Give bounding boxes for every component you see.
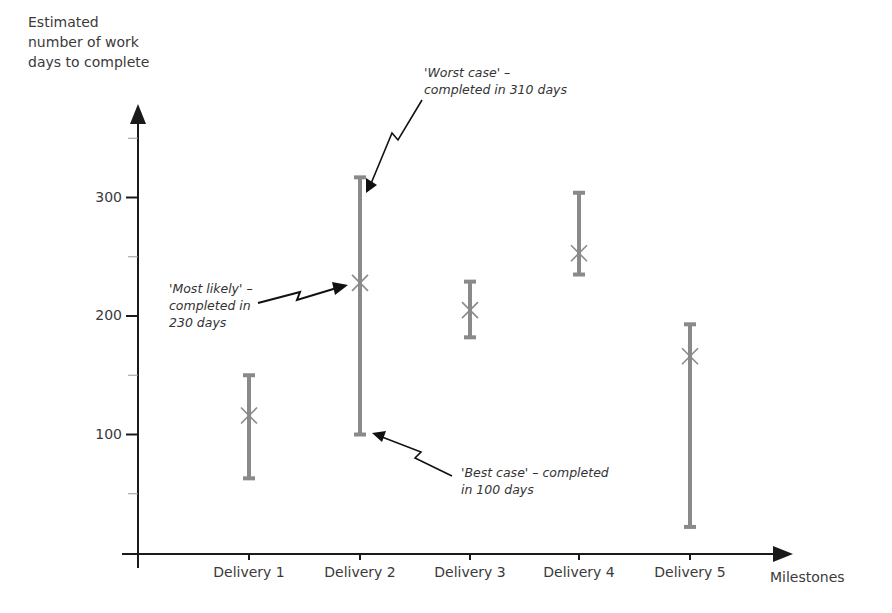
annotation-best-case: 'Best case' – completed in 100 days xyxy=(461,464,609,498)
arrowhead-icon xyxy=(372,431,386,442)
x-category-label: Delivery 1 xyxy=(194,564,304,580)
annotation-line: completed in xyxy=(169,297,253,314)
x-category-label: Delivery 3 xyxy=(415,564,525,580)
y-tick-label: 300 xyxy=(82,189,122,205)
y-axis-title: Estimated number of work days to complet… xyxy=(28,12,198,72)
annotation-line: 'Most likely' – xyxy=(169,280,253,297)
best-case-arrow-icon xyxy=(382,437,452,476)
x-category-label: Delivery 2 xyxy=(305,564,415,580)
annotation-most-likely: 'Most likely' – completed in 230 days xyxy=(169,280,253,331)
worst-case-arrow-icon xyxy=(370,100,422,186)
y-tick-label: 100 xyxy=(82,426,122,442)
annotation-line: in 100 days xyxy=(461,481,609,498)
y-axis-arrow-icon xyxy=(130,104,146,124)
y-axis-title-line-1: Estimated xyxy=(28,12,198,32)
x-category-label: Delivery 5 xyxy=(635,564,745,580)
arrowhead-icon xyxy=(332,282,348,295)
y-axis-title-line-3: days to complete xyxy=(28,52,198,72)
annotation-line: completed in 310 days xyxy=(424,81,567,98)
y-tick-label: 200 xyxy=(82,307,122,323)
x-axis-title: Milestones xyxy=(770,569,845,585)
most-likely-arrow-icon xyxy=(258,287,340,303)
x-axis-arrow-icon xyxy=(773,546,793,562)
annotation-line: 230 days xyxy=(169,314,253,331)
y-axis-title-line-2: number of work xyxy=(28,32,198,52)
annotation-worst-case: 'Worst case' – completed in 310 days xyxy=(424,64,567,98)
annotation-line: 'Best case' – completed xyxy=(461,464,609,481)
x-category-label: Delivery 4 xyxy=(524,564,634,580)
annotation-line: 'Worst case' – xyxy=(424,64,567,81)
arrowhead-icon xyxy=(366,178,377,193)
